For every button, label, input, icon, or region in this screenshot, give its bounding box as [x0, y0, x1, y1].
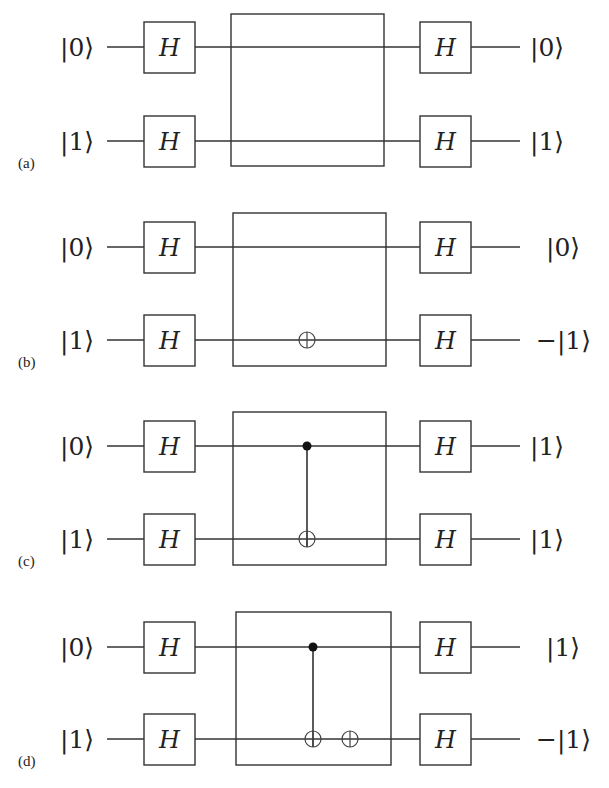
output-state-label: |1⟩	[530, 127, 564, 157]
circuit-panel-b: |0⟩HH|0⟩|1⟩HH−|1⟩(b)	[18, 213, 591, 371]
output-state-label: |1⟩	[530, 525, 564, 555]
panel-label: (d)	[18, 753, 36, 770]
hadamard-gate-label: H	[434, 526, 457, 554]
input-state-label: |0⟩	[60, 432, 94, 462]
output-state-label: |0⟩	[546, 233, 580, 263]
hadamard-gate-label: H	[434, 34, 457, 62]
control-dot-icon	[303, 442, 312, 451]
control-dot-icon	[309, 643, 318, 652]
output-state-label: −|1⟩	[536, 326, 591, 356]
output-state-label: |1⟩	[530, 432, 564, 462]
hadamard-gate-label: H	[434, 433, 457, 461]
oracle-box	[233, 213, 386, 366]
hadamard-gate-label: H	[434, 726, 457, 754]
hadamard-gate-label: H	[434, 234, 457, 262]
hadamard-gate-label: H	[158, 327, 181, 355]
hadamard-gate-label: H	[158, 726, 181, 754]
output-state-label: |0⟩	[530, 33, 564, 63]
circuit-panel-c: |0⟩HH|1⟩|1⟩HH|1⟩(c)	[18, 412, 564, 570]
hadamard-gate-label: H	[158, 634, 181, 662]
hadamard-gate-label: H	[158, 34, 181, 62]
hadamard-gate-label: H	[434, 128, 457, 156]
hadamard-gate-label: H	[158, 433, 181, 461]
panel-label: (a)	[18, 155, 35, 172]
hadamard-gate-label: H	[158, 128, 181, 156]
panel-label: (b)	[18, 354, 36, 371]
input-state-label: |0⟩	[60, 33, 94, 63]
input-state-label: |1⟩	[60, 127, 94, 157]
panel-label: (c)	[18, 553, 35, 570]
input-state-label: |0⟩	[60, 233, 94, 263]
circuit-panel-a: |0⟩HH|0⟩|1⟩HH|1⟩(a)	[18, 14, 564, 172]
input-state-label: |1⟩	[60, 725, 94, 755]
hadamard-gate-label: H	[158, 526, 181, 554]
oracle-box	[233, 412, 386, 565]
quantum-circuit-figure: |0⟩HH|0⟩|1⟩HH|1⟩(a)|0⟩HH|0⟩|1⟩HH−|1⟩(b)|…	[0, 0, 609, 788]
oracle-box	[231, 14, 384, 166]
output-state-label: −|1⟩	[536, 725, 591, 755]
input-state-label: |1⟩	[60, 326, 94, 356]
hadamard-gate-label: H	[434, 327, 457, 355]
hadamard-gate-label: H	[434, 634, 457, 662]
input-state-label: |0⟩	[60, 633, 94, 663]
input-state-label: |1⟩	[60, 525, 94, 555]
circuit-panel-d: |0⟩HH|1⟩|1⟩HH−|1⟩(d)	[18, 612, 591, 770]
output-state-label: |1⟩	[546, 633, 580, 663]
hadamard-gate-label: H	[158, 234, 181, 262]
